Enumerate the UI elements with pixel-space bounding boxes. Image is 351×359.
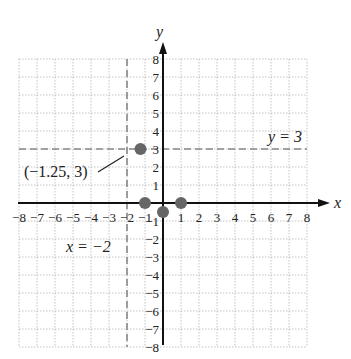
- svg-text:−5: −5: [145, 286, 159, 301]
- svg-text:−8: −8: [12, 210, 26, 225]
- svg-text:3: 3: [153, 142, 160, 157]
- svg-text:−7: −7: [145, 322, 159, 337]
- svg-text:8: 8: [304, 210, 311, 225]
- svg-text:1: 1: [178, 210, 185, 225]
- x-arrow-icon: [318, 199, 330, 207]
- hline-label: y = 3: [266, 128, 302, 146]
- x-axis-label: x: [333, 194, 341, 211]
- svg-text:−2: −2: [145, 232, 159, 247]
- svg-text:−3: −3: [102, 210, 116, 225]
- svg-text:5: 5: [250, 210, 257, 225]
- svg-text:7: 7: [153, 70, 160, 85]
- svg-text:4: 4: [153, 124, 160, 139]
- point-annotation: (−1.25, 3): [24, 163, 88, 181]
- data-point: [157, 206, 169, 218]
- svg-text:4: 4: [232, 210, 239, 225]
- data-point: [175, 197, 187, 209]
- svg-text:6: 6: [268, 210, 275, 225]
- annotation-leader: [98, 156, 124, 172]
- y-axis-label: y: [154, 23, 164, 41]
- y-arrow-icon: [159, 42, 167, 54]
- data-point: [139, 197, 151, 209]
- svg-text:−7: −7: [30, 210, 44, 225]
- svg-text:−3: −3: [145, 250, 159, 265]
- vline-label: x = −2: [65, 238, 111, 255]
- svg-text:−6: −6: [48, 210, 62, 225]
- svg-text:2: 2: [196, 210, 203, 225]
- svg-text:−1: −1: [145, 214, 159, 229]
- svg-text:6: 6: [153, 88, 160, 103]
- svg-text:−2: −2: [120, 210, 134, 225]
- axes: [18, 42, 330, 345]
- svg-text:1: 1: [153, 178, 160, 193]
- svg-text:2: 2: [153, 160, 160, 175]
- data-points: [135, 143, 188, 218]
- svg-text:−8: −8: [145, 340, 159, 355]
- svg-text:8: 8: [153, 52, 160, 67]
- svg-text:5: 5: [153, 106, 160, 121]
- coordinate-plane: −8−7−6−5−4−3−2−11234567887654321−1−2−3−4…: [0, 0, 351, 359]
- svg-text:−6: −6: [145, 304, 159, 319]
- svg-text:−4: −4: [145, 268, 159, 283]
- data-point: [135, 143, 147, 155]
- svg-text:−4: −4: [84, 210, 98, 225]
- svg-text:3: 3: [214, 210, 221, 225]
- svg-text:7: 7: [286, 210, 293, 225]
- svg-text:−5: −5: [66, 210, 80, 225]
